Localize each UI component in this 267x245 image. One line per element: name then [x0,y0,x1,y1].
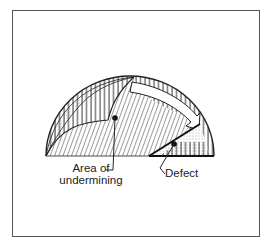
defect-label: Defect [165,167,198,179]
undermining-diagram [0,0,267,245]
area-of-undermining-label: Area of undermining [59,162,123,186]
label-line-2: undermining [59,174,123,186]
label-line-1: Area of [59,162,123,174]
